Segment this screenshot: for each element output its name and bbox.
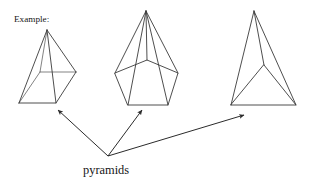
- arrow-to-triangular-pyramid: [108, 115, 244, 156]
- arrow-to-pentagonal-pyramid: [108, 110, 142, 156]
- pentagonal-pyramid-base: [115, 60, 178, 105]
- triangular-pyramid-base: [231, 65, 296, 105]
- shape-pentagonal-pyramid: [115, 11, 178, 105]
- pyramids-diagram: Example: pyramids: [0, 0, 313, 178]
- shape-square-pyramid: [19, 30, 76, 103]
- square-pyramid-lateral-edge-left: [19, 30, 47, 103]
- triangular-pyramid-lateral-edge-right: [254, 11, 296, 105]
- callout-arrows: [58, 110, 244, 156]
- shape-triangular-pyramid: [231, 11, 296, 105]
- square-pyramid-base-front: [19, 72, 76, 103]
- diagram-canvas: Example: pyramids: [0, 0, 313, 178]
- arrow-to-square-pyramid: [58, 110, 108, 156]
- pentagonal-pyramid-lateral-edge-5: [146, 11, 147, 60]
- pentagonal-pyramid-lateral-edge-4: [115, 11, 146, 73]
- triangular-pyramid-lateral-edge-back: [254, 11, 264, 65]
- example-label: Example:: [14, 14, 49, 24]
- pyramids-label: pyramids: [83, 163, 129, 177]
- square-pyramid-hidden-lateral-edge: [40, 30, 47, 72]
- pentagonal-pyramid-lateral-edge-1: [128, 11, 146, 105]
- pentagonal-pyramid-lateral-edge-3: [146, 11, 178, 73]
- pentagonal-pyramid-lateral-edge-2: [146, 11, 168, 105]
